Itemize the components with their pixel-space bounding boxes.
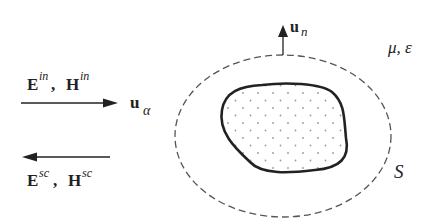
incident-e-sup: in — [39, 69, 48, 83]
surface-label: S — [394, 161, 404, 182]
scattered-e: E — [27, 171, 38, 190]
scattered-field-label: E sc , H sc — [27, 166, 93, 190]
scattered-h-sup: sc — [82, 166, 93, 180]
incident-sep: , — [51, 75, 55, 94]
scattered-h: H — [68, 171, 81, 190]
direction-u-label: u — [130, 93, 139, 112]
scattering-diagram: u n μ, ε S E in , H in u α E sc , H sc — [0, 0, 441, 222]
scatterer-body — [221, 83, 346, 172]
incident-arrow — [21, 99, 118, 108]
normal-u-label: u — [290, 18, 299, 35]
scattered-arrow — [22, 153, 110, 162]
normal-vector-arrow — [278, 25, 288, 55]
incident-h: H — [66, 75, 79, 94]
scattered-e-sup: sc — [39, 166, 50, 180]
direction-alpha-subscript: α — [143, 103, 151, 118]
incident-e: E — [27, 75, 38, 94]
incident-field-label: E in , H in — [27, 69, 89, 94]
scattered-sep: , — [53, 171, 57, 190]
normal-n-subscript: n — [301, 24, 308, 39]
incident-h-sup: in — [80, 69, 89, 83]
medium-label: μ, ε — [387, 38, 412, 57]
